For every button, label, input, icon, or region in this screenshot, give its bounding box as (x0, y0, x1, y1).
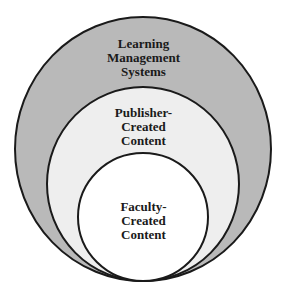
label-line: Faculty- (0, 200, 287, 214)
label-line: Systems (0, 65, 287, 79)
label-line: Publisher- (0, 106, 287, 120)
label-line: Learning (0, 37, 287, 51)
label-lms: Learning Management Systems (0, 37, 287, 79)
label-faculty: Faculty- Created Content (0, 200, 287, 242)
label-line: Content (0, 134, 287, 148)
label-line: Management (0, 51, 287, 65)
label-line: Content (0, 228, 287, 242)
label-line: Created (0, 120, 287, 134)
label-publisher: Publisher- Created Content (0, 106, 287, 148)
label-line: Created (0, 214, 287, 228)
